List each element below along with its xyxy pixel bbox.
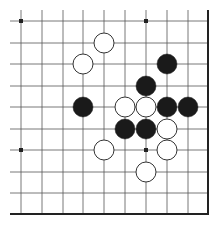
stones bbox=[73, 33, 198, 182]
star-point-icon bbox=[19, 19, 23, 23]
white-stone[interactable] bbox=[157, 119, 177, 139]
black-stone[interactable] bbox=[136, 119, 156, 139]
star-point-icon bbox=[144, 148, 148, 152]
black-stone[interactable] bbox=[115, 119, 135, 139]
black-stone[interactable] bbox=[157, 54, 177, 74]
star-point-icon bbox=[144, 19, 148, 23]
star-point-icon bbox=[19, 148, 23, 152]
white-stone[interactable] bbox=[115, 97, 135, 117]
white-stone[interactable] bbox=[136, 97, 156, 117]
black-stone[interactable] bbox=[157, 97, 177, 117]
white-stone[interactable] bbox=[136, 162, 156, 182]
black-stone[interactable] bbox=[178, 97, 198, 117]
go-board[interactable] bbox=[0, 0, 214, 227]
black-stone[interactable] bbox=[73, 97, 93, 117]
white-stone[interactable] bbox=[94, 140, 114, 160]
white-stone[interactable] bbox=[73, 54, 93, 74]
white-stone[interactable] bbox=[157, 140, 177, 160]
black-stone[interactable] bbox=[136, 76, 156, 96]
white-stone[interactable] bbox=[94, 33, 114, 53]
